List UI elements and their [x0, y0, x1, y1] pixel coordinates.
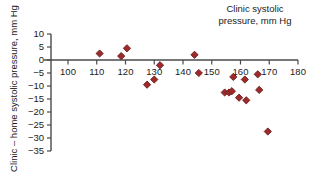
data-point [123, 45, 130, 52]
axis-layer: 1050−5−10−15−20−25−30−351001101201301401… [28, 28, 306, 156]
data-point [191, 51, 198, 58]
data-point [195, 69, 202, 76]
x-axis-tick-label: 100 [60, 66, 76, 77]
y-axis-tick-label: −20 [28, 106, 44, 117]
data-point [256, 86, 263, 93]
y-axis-tick-label: −10 [28, 80, 44, 91]
y-axis-tick-label: −15 [28, 93, 44, 104]
data-point [264, 128, 271, 135]
x-axis-tick-label: 180 [290, 66, 306, 77]
data-point [118, 53, 125, 60]
data-points-layer [96, 45, 271, 135]
y-axis-tick-label: −25 [28, 119, 44, 130]
y-axis-tick-label: −5 [33, 67, 44, 78]
x-axis-tick-label: 140 [175, 66, 191, 77]
x-axis-tick-label: 170 [261, 66, 277, 77]
y-axis-tick-label: 10 [33, 28, 44, 39]
data-point [235, 94, 242, 101]
y-axis-tick-label: 5 [39, 41, 44, 52]
x-axis-tick-label: 120 [118, 66, 134, 77]
x-axis-tick-label: 150 [204, 66, 220, 77]
x-axis-tick-label: 110 [89, 66, 104, 77]
y-axis-tick-label: −30 [28, 132, 44, 143]
data-point [143, 81, 150, 88]
scatter-chart: Clinic systolic pressure, mm Hg Clinic –… [0, 0, 315, 185]
data-point [254, 71, 261, 78]
y-axis-tick-label: 0 [39, 54, 44, 65]
plot-area: 1050−5−10−15−20−25−30−351001101201301401… [0, 0, 315, 185]
data-point [96, 50, 103, 57]
y-axis-tick-label: −35 [28, 145, 44, 156]
data-point [243, 97, 250, 104]
